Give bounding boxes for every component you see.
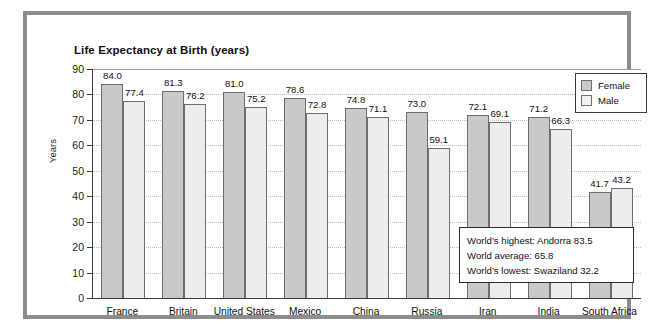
y-axis-tick-label: 50 <box>72 165 84 177</box>
legend-label-female: Female <box>598 80 630 91</box>
y-axis-tick-mark <box>87 222 93 223</box>
bar-value-label: 81.0 <box>225 78 244 89</box>
y-axis-tick-label: 10 <box>72 267 84 279</box>
y-axis-tick-mark <box>87 247 93 248</box>
legend-swatch-female-icon <box>581 80 592 91</box>
bar-britain-male[interactable] <box>184 104 206 298</box>
bar-value-label: 84.0 <box>103 70 122 81</box>
y-axis-tick-label: 40 <box>72 190 84 202</box>
y-axis-tick-mark <box>87 69 93 70</box>
y-axis-tick-label: 60 <box>72 139 84 151</box>
bar-value-label: 66.3 <box>551 115 570 126</box>
x-axis-category-label: Russia <box>411 306 442 317</box>
bar-russia-male[interactable] <box>428 148 450 298</box>
bar-value-label: 75.2 <box>247 93 266 104</box>
y-axis-tick-mark <box>87 273 93 274</box>
bar-value-label: 69.1 <box>490 108 509 119</box>
bar-united-states-male[interactable] <box>245 107 267 298</box>
bar-britain-female[interactable] <box>162 91 184 298</box>
bar-value-label: 72.8 <box>308 99 327 110</box>
y-axis-tick-mark <box>87 196 93 197</box>
y-axis-tick-mark <box>87 120 93 121</box>
bar-value-label: 73.0 <box>408 98 427 109</box>
gridline <box>93 69 641 70</box>
y-axis-tick-mark <box>87 171 93 172</box>
bar-value-label: 72.1 <box>468 101 487 112</box>
x-axis-category-label: India <box>538 306 560 317</box>
bar-mexico-male[interactable] <box>306 113 328 298</box>
y-axis-tick-mark <box>87 94 93 95</box>
y-axis-tick-label: 80 <box>72 88 84 100</box>
y-axis-tick-mark <box>87 298 93 299</box>
x-axis-category-label: Iran <box>479 306 497 317</box>
bar-france-male[interactable] <box>123 101 145 298</box>
bar-value-label: 59.1 <box>430 134 449 145</box>
legend-item-male[interactable]: Male <box>581 93 646 108</box>
bar-value-label: 74.8 <box>347 94 366 105</box>
x-axis-category-label: Mexico <box>289 306 321 317</box>
y-axis-tick-label: 90 <box>72 63 84 75</box>
figure-frame: Life Expectancy at Birth (years) Years 9… <box>23 11 631 319</box>
annotation-line-average: World average: 65.8 <box>467 248 633 263</box>
annotation-line-highest: World’s highest: Andorra 83.5 <box>467 233 633 248</box>
legend-item-female[interactable]: Female <box>581 78 646 93</box>
x-axis-category-label: South Africa <box>582 306 637 317</box>
legend-swatch-male-icon <box>581 95 592 106</box>
legend-label-male: Male <box>598 95 619 106</box>
bar-mexico-female[interactable] <box>284 98 306 298</box>
bar-value-label: 71.2 <box>529 103 548 114</box>
y-axis-label: Years <box>47 139 58 163</box>
bar-value-label: 81.3 <box>164 77 183 88</box>
bar-value-label: 77.4 <box>125 87 144 98</box>
bar-value-label: 76.2 <box>186 90 205 101</box>
bar-russia-female[interactable] <box>406 112 428 298</box>
bar-value-label: 43.2 <box>612 174 631 185</box>
bar-france-female[interactable] <box>101 84 123 298</box>
x-axis-category-label: Britain <box>169 306 198 317</box>
bar-value-label: 71.1 <box>369 103 388 114</box>
y-axis-tick-label: 20 <box>72 241 84 253</box>
bar-value-label: 78.6 <box>286 84 305 95</box>
x-axis-category-label: China <box>353 306 380 317</box>
annotation-box: World’s highest: Andorra 83.5 World aver… <box>459 227 634 283</box>
chart-legend: Female Male <box>575 73 647 113</box>
annotation-line-lowest: World’s lowest: Swaziland 32.2 <box>467 263 633 278</box>
page-title: Life Expectancy at Birth (years) <box>74 44 249 56</box>
y-axis-tick-label: 0 <box>78 292 84 304</box>
bar-value-label: 41.7 <box>590 178 609 189</box>
bar-united-states-female[interactable] <box>223 92 245 298</box>
y-axis-tick-label: 30 <box>72 216 84 228</box>
bar-china-female[interactable] <box>345 108 367 298</box>
x-axis-category-label: France <box>107 306 139 317</box>
y-axis-tick-label: 70 <box>72 114 84 126</box>
y-axis-tick-mark <box>87 145 93 146</box>
x-axis-category-label: United States <box>214 306 275 317</box>
bar-china-male[interactable] <box>367 117 389 298</box>
